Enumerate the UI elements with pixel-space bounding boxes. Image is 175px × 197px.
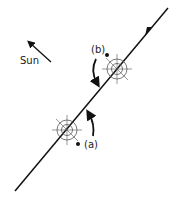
label-a: (a) — [84, 139, 98, 150]
diagram-canvas: Sun (b) (a) — [0, 0, 175, 197]
diagram-svg: Sun (b) (a) — [0, 0, 175, 197]
orbit-path-line — [15, 8, 168, 191]
rotation-b-curved-arrow-icon — [93, 59, 97, 83]
marker-b-dot — [105, 53, 109, 57]
rotation-a-curved-arrow-icon — [89, 114, 94, 136]
sun-label: Sun — [20, 55, 39, 66]
label-b: (b) — [91, 44, 105, 55]
marker-a-dot — [76, 142, 80, 146]
body-b-crosshair-icon — [102, 54, 132, 84]
